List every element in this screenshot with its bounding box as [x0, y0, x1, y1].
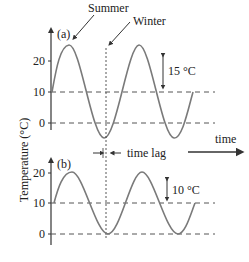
y-ticks-b: 20 10 0 [33, 166, 51, 241]
ytick-20-b: 20 [33, 166, 45, 180]
ytick-10-b: 10 [33, 196, 45, 210]
panel-b: (b) 20 10 0 10 °C [33, 157, 215, 245]
amplitude-label-a: 15 °C [168, 64, 196, 78]
panel-a: (a) 20 10 0 Summer Winter 15 °C [33, 1, 215, 138]
temperature-lag-diagram: (a) 20 10 0 Summer Winter 15 °C time lag… [0, 0, 249, 262]
winter-label: Winter [133, 14, 166, 28]
winter-arrow [110, 22, 130, 44]
panel-b-label: (b) [57, 157, 71, 171]
x-axis-label: time [215, 132, 236, 146]
summer-label: Summer [88, 1, 129, 15]
ytick-0-a: 0 [39, 116, 45, 130]
y-axis-label: Temperature (°C) [17, 118, 31, 202]
panel-a-label: (a) [57, 27, 70, 41]
ytick-10-a: 10 [33, 85, 45, 99]
amplitude-label-b: 10 °C [172, 183, 200, 197]
time-lag-label: time lag [127, 146, 166, 160]
summer-arrow [74, 15, 94, 38]
ytick-20-a: 20 [33, 54, 45, 68]
time-lag: time lag [93, 146, 166, 160]
ytick-0-b: 0 [39, 227, 45, 241]
y-ticks-a: 20 10 0 [33, 54, 51, 130]
